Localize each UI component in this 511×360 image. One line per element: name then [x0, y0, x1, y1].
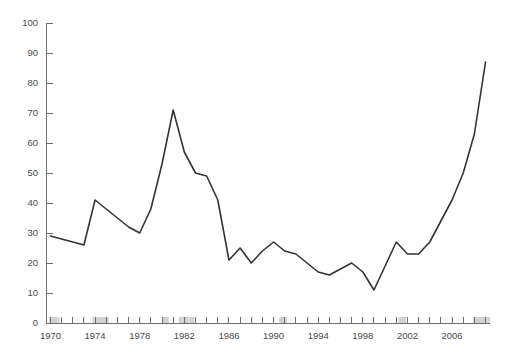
x-tick-label: 2002 — [397, 330, 418, 341]
recession-band — [399, 317, 407, 323]
chart-canvas: 0102030405060708090100 19701974197819821… — [0, 0, 511, 360]
x-tick-label: 1990 — [263, 330, 284, 341]
x-axis-ticks — [50, 317, 485, 323]
y-tick-label: 40 — [27, 197, 38, 208]
x-axis-tick-labels: 1970197419781982198619901994199820022006 — [40, 330, 463, 341]
y-tick-label: 50 — [27, 167, 38, 178]
x-tick-label: 1978 — [129, 330, 150, 341]
chart-axes — [46, 23, 490, 323]
x-tick-label: 1998 — [352, 330, 373, 341]
data-series — [50, 62, 485, 290]
recession-band — [179, 317, 195, 323]
y-tick-label: 0 — [33, 317, 38, 328]
y-tick-label: 60 — [27, 137, 38, 148]
recession-band — [162, 317, 169, 323]
y-tick-label: 80 — [27, 77, 38, 88]
recession-band — [473, 317, 490, 323]
y-axis-tick-labels: 0102030405060708090100 — [22, 17, 38, 328]
x-tick-label: 1986 — [218, 330, 239, 341]
x-tick-label: 1994 — [308, 330, 329, 341]
recession-band — [279, 317, 287, 323]
x-tick-label: 1970 — [40, 330, 61, 341]
y-tick-label: 70 — [27, 107, 38, 118]
y-tick-label: 20 — [27, 257, 38, 268]
x-tick-label: 1982 — [174, 330, 195, 341]
x-tick-label: 1974 — [85, 330, 106, 341]
y-tick-label: 10 — [27, 287, 38, 298]
recession-bands — [49, 317, 490, 323]
x-tick-label: 2006 — [442, 330, 463, 341]
y-tick-label: 100 — [22, 17, 38, 28]
line-chart: 0102030405060708090100 19701974197819821… — [0, 0, 511, 360]
series-line — [50, 62, 485, 290]
y-tick-label: 30 — [27, 227, 38, 238]
y-axis-ticks — [46, 23, 53, 323]
y-tick-label: 90 — [27, 47, 38, 58]
